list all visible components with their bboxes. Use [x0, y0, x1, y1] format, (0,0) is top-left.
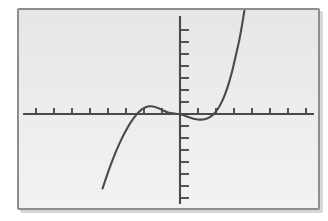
- graph-canvas: [19, 10, 318, 208]
- graph-plot-area[interactable]: [19, 10, 318, 208]
- plotted-function-curve: [103, 10, 251, 188]
- calculator-screenshot: [0, 0, 328, 221]
- calculator-screen-bezel: [17, 8, 320, 210]
- y-axis-ticks-positive: [180, 30, 189, 102]
- y-axis-ticks-negative: [180, 126, 189, 198]
